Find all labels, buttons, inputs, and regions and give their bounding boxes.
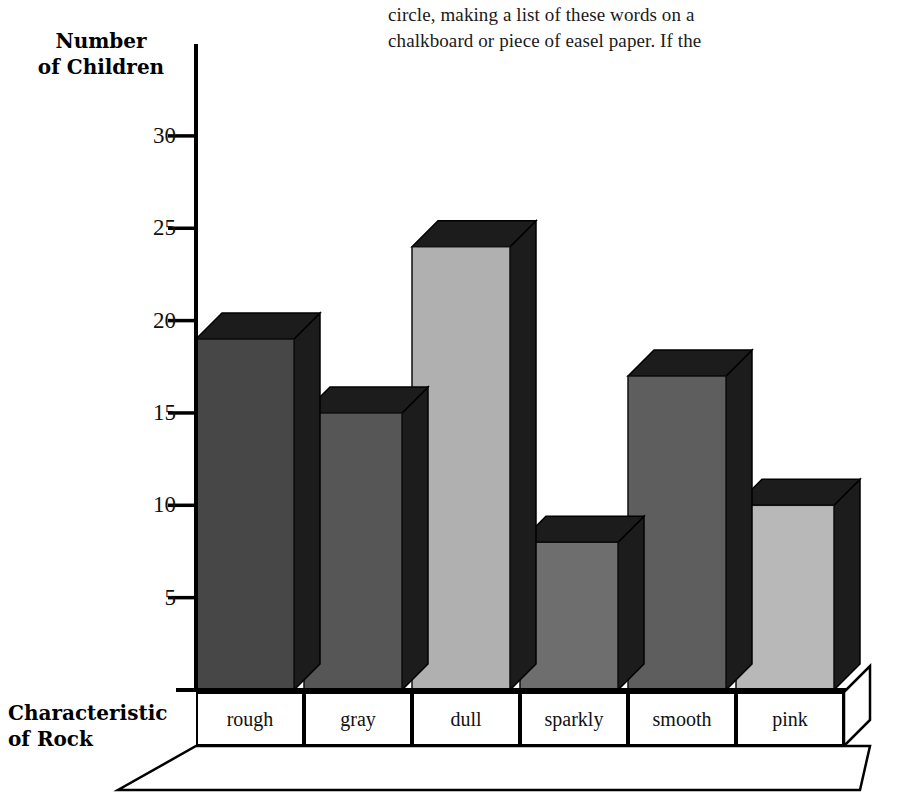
y-tick-label-10: 10 xyxy=(130,492,176,518)
category-cell-smooth: smooth xyxy=(628,692,736,746)
bar-side-rough xyxy=(294,313,320,690)
bar-pink xyxy=(736,479,860,690)
category-cell-sparkly: sparkly xyxy=(520,692,628,746)
category-cell-rough: rough xyxy=(196,692,304,746)
y-tick-label-20: 20 xyxy=(130,308,176,334)
bar-front-rough xyxy=(196,339,294,690)
bars-layer xyxy=(196,221,860,690)
bar-smooth xyxy=(628,350,752,690)
bar-side-pink xyxy=(834,479,860,690)
bar-gray xyxy=(304,387,428,690)
bar-side-sparkly xyxy=(618,516,644,690)
bar-chart xyxy=(0,0,904,796)
bar-side-smooth xyxy=(726,350,752,690)
y-tick-label-5: 5 xyxy=(130,585,176,611)
y-tick-label-15: 15 xyxy=(130,400,176,426)
base-platform-slab xyxy=(118,746,870,790)
y-tick-label-25: 25 xyxy=(130,215,176,241)
label-strip-side xyxy=(844,666,870,746)
bar-side-dull xyxy=(510,221,536,690)
bar-side-gray xyxy=(402,387,428,690)
y-tick-label-30: 30 xyxy=(130,123,176,149)
category-cell-dull: dull xyxy=(412,692,520,746)
category-cell-pink: pink xyxy=(736,692,844,746)
bar-rough xyxy=(196,313,320,690)
bar-dull xyxy=(412,221,536,690)
bar-sparkly xyxy=(520,516,644,690)
category-cell-gray: gray xyxy=(304,692,412,746)
